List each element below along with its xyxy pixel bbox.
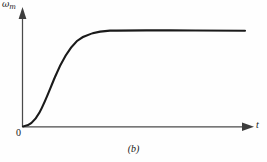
plot-area	[0, 0, 267, 162]
y-axis-label: ωm	[2, 0, 16, 11]
figure-caption: (b)	[0, 143, 267, 154]
x-axis-label: t	[256, 120, 259, 130]
x-axis-arrowhead	[242, 123, 254, 131]
y-axis-subscript: m	[9, 3, 16, 11]
y-axis-arrowhead	[19, 7, 27, 19]
motor-speed-response-curve	[23, 30, 245, 126]
figure-container: ωm t 0 (b)	[0, 0, 267, 162]
origin-label: 0	[16, 128, 21, 138]
